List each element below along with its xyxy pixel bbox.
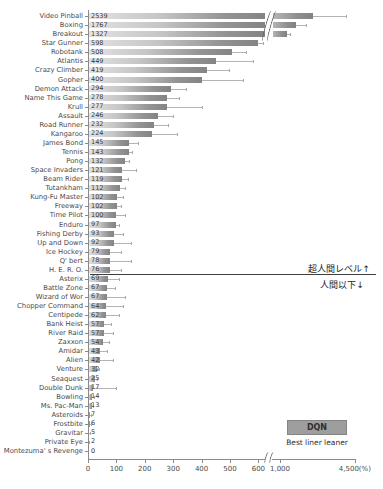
x-axis-tick	[280, 459, 281, 463]
linear-learner-cap	[253, 60, 254, 63]
game-label: Up and Down	[0, 239, 86, 247]
dqn-value: 419	[91, 67, 103, 74]
dqn-bar	[88, 49, 232, 55]
game-label: Time Pilot	[0, 211, 86, 219]
dqn-value: 25	[91, 375, 99, 382]
dqn-value: 42	[91, 357, 99, 364]
linear-learner-cap	[132, 151, 133, 154]
dqn-value: 102	[91, 203, 103, 210]
game-label: Beam Rider	[0, 175, 86, 183]
dqn-value: 32	[91, 366, 99, 373]
dqn-value: 7	[91, 411, 95, 418]
dqn-value: 43	[91, 348, 99, 355]
linear-learner-cap	[306, 24, 307, 27]
plot-area: Video Pinball2539Boxing1767Breakout1327S…	[0, 0, 383, 489]
game-label: Tennis	[0, 148, 86, 156]
x-axis-tick-label: 0	[86, 465, 90, 473]
dqn-bar-after-break	[273, 22, 297, 28]
linear-learner-cap	[116, 387, 117, 390]
game-label: Freeway	[0, 202, 86, 210]
linear-learner-cap	[121, 251, 122, 254]
dqn-value: 93	[91, 230, 99, 237]
game-label: Gravitar	[0, 429, 86, 437]
game-label: Ice Hockey	[0, 248, 86, 256]
x-axis-tick	[145, 459, 146, 463]
dqn-value: 121	[91, 167, 103, 174]
x-axis-tick-label: 200	[138, 465, 151, 473]
dqn-bar	[88, 22, 265, 28]
linear-learner-cap	[109, 341, 110, 344]
x-axis-tick	[88, 459, 89, 463]
linear-learner-cap	[107, 350, 108, 353]
dqn-value: 100	[91, 212, 103, 219]
linear-learner-line	[207, 70, 229, 71]
dqn-bar	[88, 77, 202, 83]
game-label: Centipede	[0, 311, 86, 319]
linear-learner-cap	[89, 441, 90, 444]
game-label: Boxing	[0, 21, 86, 29]
game-label: Pong	[0, 157, 86, 165]
dqn-value: 400	[91, 76, 103, 83]
linear-learner-cap	[138, 142, 139, 145]
game-label: Ms. Pac-Man	[0, 402, 86, 410]
linear-learner-line	[114, 234, 122, 235]
linear-learner-line	[154, 125, 168, 126]
game-label: Name This Game	[0, 94, 86, 102]
linear-learner-cap	[125, 187, 126, 190]
dqn-value: 2539	[91, 13, 108, 20]
x-axis-tick-label: 600	[252, 465, 265, 473]
dqn-value: 64	[91, 303, 99, 310]
game-label: Seaquest	[0, 375, 86, 383]
game-label: Fishing Derby	[0, 230, 86, 238]
dqn-value: 67	[91, 293, 99, 300]
linear-learner-cap	[131, 242, 132, 245]
dqn-value: 246	[91, 112, 103, 119]
dqn-bar	[88, 67, 207, 73]
game-label: Bowling	[0, 393, 86, 401]
dqn-value: 598	[91, 40, 103, 47]
linear-learner-cap	[263, 42, 264, 45]
linear-learner-line	[110, 261, 130, 262]
linear-learner-cap	[246, 51, 247, 54]
game-label: Video Pinball	[0, 12, 86, 20]
linear-learner-cap	[115, 287, 116, 290]
dqn-value: 2	[91, 438, 95, 445]
game-label: Gopher	[0, 76, 86, 84]
dqn-bar	[88, 40, 258, 46]
linear-learner-line	[171, 89, 185, 90]
below-human-annotation: 人間以下↓	[320, 278, 364, 291]
dqn-bar-after-break	[273, 31, 287, 37]
game-label: Space Invaders	[0, 166, 86, 174]
dqn-value: 1767	[91, 22, 108, 29]
linear-learner-line	[158, 116, 173, 117]
dqn-bar	[88, 31, 265, 37]
linear-learner-cap	[136, 169, 137, 172]
dqn-value: 13	[91, 402, 99, 409]
dqn-bar	[88, 13, 265, 19]
dqn-value: 508	[91, 49, 103, 56]
linear-learner-line	[167, 98, 179, 99]
linear-learner-line	[106, 306, 122, 307]
linear-learner-cap	[186, 88, 187, 91]
legend-dqn-label: DQN	[307, 423, 327, 432]
dqn-bar	[88, 58, 216, 64]
dqn-value: 5	[91, 429, 95, 436]
game-label: Bank Heist	[0, 320, 86, 328]
game-label: Battle Zone	[0, 284, 86, 292]
dqn-value: 54	[91, 339, 99, 346]
dqn-value: 102	[91, 194, 103, 201]
linear-learner-line	[106, 315, 120, 316]
legend-linear-label: Best liner leaner	[280, 438, 354, 447]
linear-learner-cap	[99, 368, 100, 371]
linear-learner-line	[110, 252, 120, 253]
game-label: Wizard of Wor	[0, 293, 86, 301]
x-axis-tick-label: 500	[223, 465, 236, 473]
linear-learner-line	[232, 52, 245, 53]
linear-learner-cap	[179, 97, 180, 100]
dqn-value: 14	[91, 393, 99, 400]
y-axis-line	[88, 10, 89, 459]
x-axis-tick-label: 1,000	[270, 465, 290, 473]
dqn-value: 132	[91, 158, 103, 165]
dqn-value: 69	[91, 275, 99, 282]
game-label: Enduro	[0, 221, 86, 229]
